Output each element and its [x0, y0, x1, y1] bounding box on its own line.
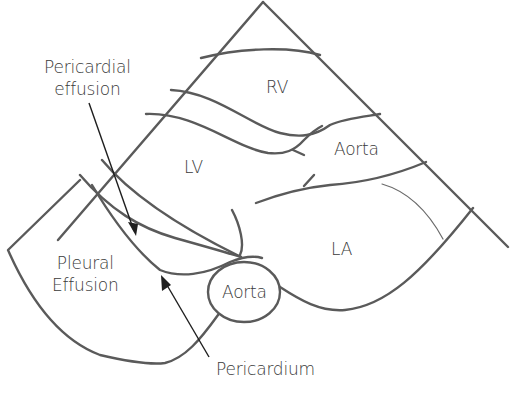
lv-posterior-wall-outer [102, 160, 241, 257]
la-posterior-wall [280, 208, 473, 310]
label-aorta-descending: Aorta [222, 281, 267, 303]
annotation-pericardial-effusion: Pericardial effusion [44, 56, 131, 100]
aorta-la-boundary [256, 162, 426, 203]
pericardium-arrow-line [164, 280, 209, 357]
label-rv: RV [266, 76, 288, 98]
label-la: LA [331, 238, 352, 260]
label-pleural-effusion-line2: Effusion [52, 274, 119, 296]
annotation-pericardial-effusion-line1: Pericardial [44, 56, 131, 78]
annotation-pericardial-effusion-line2: effusion [44, 78, 131, 100]
rv-anterior-wall [201, 49, 320, 58]
pericardial-effusion-arrow-line [89, 103, 134, 231]
label-aorta-outflow: Aorta [334, 138, 379, 160]
label-pleural-effusion: Pleural Effusion [52, 252, 119, 296]
sector-left-edge [58, 2, 263, 240]
mitral-tick [304, 175, 314, 186]
septum-lower [146, 114, 322, 154]
echo-parasternal-long-axis-diagram: RV LV Aorta LA Aorta Pleural Effusion Pe… [0, 0, 514, 401]
aortic-valve-tick [293, 150, 304, 155]
la-inner-thin-line [382, 184, 443, 239]
annotation-pericardium: Pericardium [216, 358, 315, 380]
label-lv: LV [184, 156, 203, 178]
pericardial-effusion-arrowhead-icon [128, 222, 138, 236]
label-pleural-effusion-line1: Pleural [52, 252, 119, 274]
mitral-leaflet [232, 210, 242, 255]
